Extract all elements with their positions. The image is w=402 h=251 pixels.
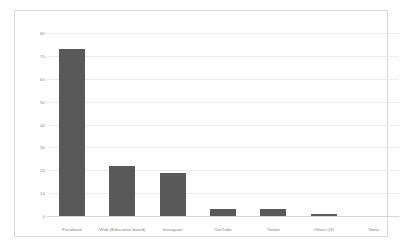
y-axis-tick-label: 0: [19, 214, 45, 219]
x-axis-tick-label: Facebook: [62, 227, 82, 233]
y-axis-tick-label: 20: [19, 168, 45, 173]
x-axis: FacebookWeb (Education board)InstagramYo…: [47, 227, 399, 241]
x-axis-line: [47, 216, 399, 217]
bar-slot: [97, 33, 147, 216]
x-axis-tick-label: YouTube: [214, 227, 232, 233]
y-axis-tick-label: 10: [19, 191, 45, 196]
chart-frame: 01020304050607080 FacebookWeb (Education…: [14, 10, 388, 237]
chart-canvas: 01020304050607080 FacebookWeb (Education…: [0, 0, 402, 251]
y-axis: 01020304050607080: [15, 33, 45, 216]
y-axis-tick-label: 40: [19, 122, 45, 127]
bar[interactable]: [109, 166, 135, 216]
bar-slot: [349, 33, 399, 216]
y-axis-tick-label: 80: [19, 31, 45, 36]
bar-slot: [248, 33, 298, 216]
bar-slot: [298, 33, 348, 216]
y-axis-tick-label: 60: [19, 76, 45, 81]
bar[interactable]: [311, 214, 337, 216]
x-axis-tick-label: Web (Education board): [99, 227, 145, 233]
bar-slot: [47, 33, 97, 216]
x-axis-tick-label: Twitter: [267, 227, 280, 233]
bar[interactable]: [59, 49, 85, 216]
x-axis-tick-label: Others (3): [313, 227, 333, 233]
y-axis-tick-label: 30: [19, 145, 45, 150]
bar[interactable]: [210, 209, 236, 216]
x-axis-tick-label: Instagram: [163, 227, 183, 233]
y-axis-tick-label: 50: [19, 99, 45, 104]
bar-slot: [148, 33, 198, 216]
bar[interactable]: [160, 173, 186, 216]
x-axis-tick-label: None: [368, 227, 379, 233]
bar-slot: [198, 33, 248, 216]
bar-series: [47, 33, 399, 216]
y-axis-tick-label: 70: [19, 53, 45, 58]
bar[interactable]: [260, 209, 286, 216]
